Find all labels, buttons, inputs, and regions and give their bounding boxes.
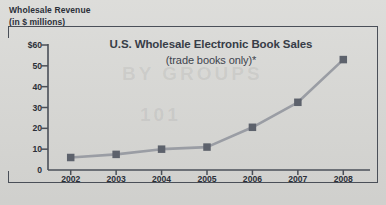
series-marker [67,154,75,162]
series-marker [340,56,348,64]
series-marker [158,145,166,153]
y-axis-ticks [41,45,48,149]
plot-area: U.S. Wholesale Electronic Book Sales (tr… [0,0,386,205]
chart-svg [0,0,386,205]
series-marker [294,99,302,107]
series-line [71,60,344,158]
series-marker [112,151,120,159]
axis-lines [48,44,370,170]
series-marker [203,143,211,151]
series-marker [249,124,257,132]
chart-page: Wholesale Revenue (in $ millions) BY GRO… [0,0,386,205]
series-markers [67,56,347,161]
